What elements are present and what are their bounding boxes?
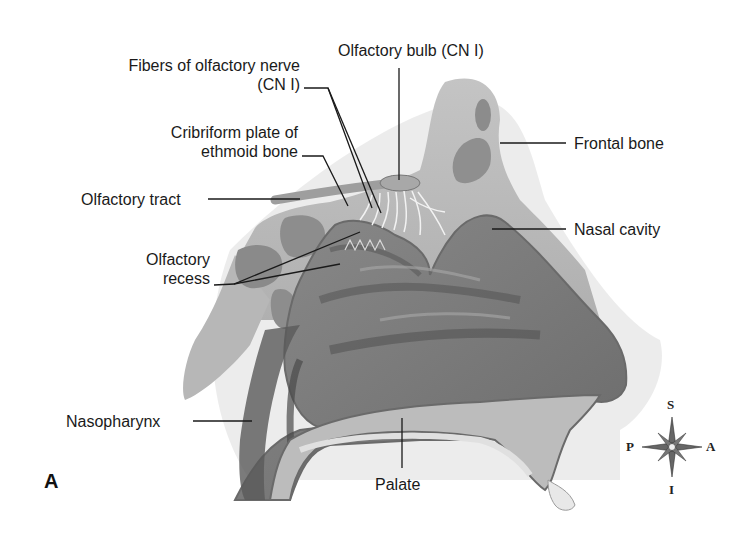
label-olfactory-recess: Olfactory recess: [100, 250, 210, 288]
label-nasopharynx: Nasopharynx: [66, 412, 160, 431]
label-frontal-bone: Frontal bone: [574, 134, 664, 153]
label-palate: Palate: [375, 475, 420, 494]
olfactory-bulb: [380, 175, 420, 191]
label-fibers-line1: Fibers of olfactory nerve: [60, 56, 300, 75]
incisor-tooth: [548, 480, 575, 510]
compass-rose-icon: [642, 417, 702, 477]
nasal-olfactory-diagram: Fibers of olfactory nerve (CN I) Olfacto…: [0, 0, 748, 533]
label-cribriform-line2: ethmoid bone: [80, 142, 298, 161]
compass-posterior: P: [626, 439, 634, 455]
label-olfactory-tract: Olfactory tract: [81, 190, 181, 209]
label-fibers-olfactory-nerve: Fibers of olfactory nerve (CN I): [60, 56, 300, 94]
compass-anterior: A: [706, 439, 715, 455]
compass-inferior: I: [669, 482, 674, 498]
label-olfactory-bulb: Olfactory bulb (CN I): [338, 41, 484, 60]
label-nasal-cavity: Nasal cavity: [574, 220, 660, 239]
label-fibers-line2: (CN I): [60, 75, 300, 94]
label-cribriform-plate: Cribriform plate of ethmoid bone: [80, 123, 298, 161]
panel-letter: A: [44, 470, 58, 493]
compass-superior: S: [667, 397, 674, 413]
label-recess-line2: recess: [100, 269, 210, 288]
label-cribriform-line1: Cribriform plate of: [80, 123, 298, 142]
frontal-sinus-upper: [475, 99, 491, 131]
label-recess-line1: Olfactory: [100, 250, 210, 269]
